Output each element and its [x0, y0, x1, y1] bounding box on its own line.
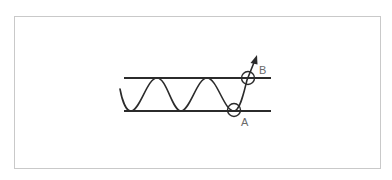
- point-b-label: B: [259, 65, 266, 76]
- arrow-head-icon: [251, 55, 258, 65]
- point-a-circle: [228, 104, 241, 117]
- point-a-label: A: [241, 117, 248, 128]
- channel-breakout-diagram: [0, 0, 392, 180]
